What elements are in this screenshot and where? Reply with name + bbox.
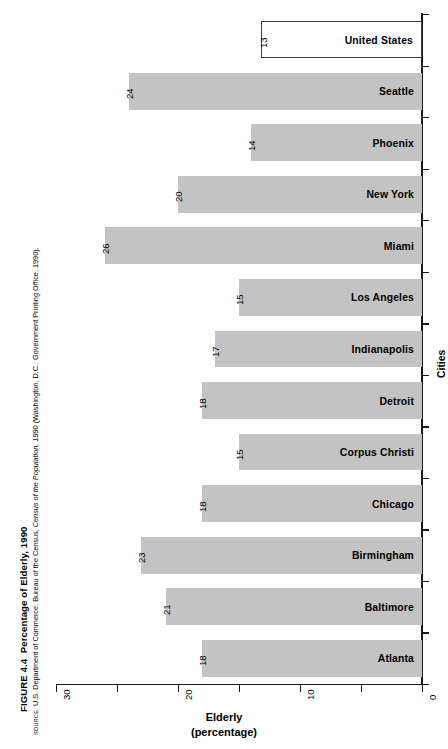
bar-category-label: Indianapolis bbox=[352, 343, 414, 354]
bar-corpus-christi: Corpus Christi bbox=[239, 434, 422, 471]
bar-seattle: Seattle bbox=[129, 73, 422, 110]
bar-row: Seattle24 bbox=[56, 73, 422, 110]
value-axis-title-main: Elderly bbox=[0, 710, 448, 725]
category-axis-title: Cities bbox=[436, 350, 447, 378]
bar-value-label: 13 bbox=[258, 37, 269, 48]
category-tick bbox=[422, 272, 429, 273]
bar-new-york: New York bbox=[178, 176, 422, 213]
category-tick bbox=[422, 632, 429, 633]
category-tick bbox=[422, 169, 429, 170]
source-text-post: (Washington, D.C.: Government Printing O… bbox=[31, 247, 40, 425]
bar-row: Chicago18 bbox=[56, 485, 422, 522]
bar-value-label: 15 bbox=[234, 449, 245, 460]
bar-row: Los Angeles15 bbox=[56, 279, 422, 316]
category-tick bbox=[422, 478, 429, 479]
value-tick bbox=[361, 684, 362, 692]
bar-row: United States13 bbox=[56, 21, 422, 58]
category-tick bbox=[422, 323, 429, 324]
bar-value-label: 17 bbox=[210, 346, 221, 357]
bar-baltimore: Baltimore bbox=[166, 588, 422, 625]
value-tick-label: 0 bbox=[427, 695, 438, 700]
value-tick bbox=[300, 684, 301, 692]
bar-row: Phoenix14 bbox=[56, 124, 422, 161]
bar-value-label: 21 bbox=[161, 604, 172, 615]
bar-phoenix: Phoenix bbox=[251, 124, 422, 161]
value-tick-label: 20 bbox=[183, 689, 194, 700]
bar-category-label: Birmingham bbox=[352, 550, 414, 561]
value-axis-title: Elderly (percentage) bbox=[0, 710, 448, 740]
figure-title: Percentage of Elderly, 1990 bbox=[18, 526, 29, 653]
source-publication-title: Census of the Population, 1990 bbox=[31, 425, 40, 527]
bar-category-label: Seattle bbox=[379, 86, 414, 97]
value-tick bbox=[117, 684, 118, 692]
bar-category-label: Phoenix bbox=[373, 137, 414, 148]
value-tick bbox=[422, 684, 423, 692]
bar-atlanta: Atlanta bbox=[202, 640, 422, 677]
value-tick-label: 10 bbox=[305, 689, 316, 700]
bar-value-label: 15 bbox=[234, 295, 245, 306]
bar-category-label: Los Angeles bbox=[351, 292, 414, 303]
bar-row: Corpus Christi15 bbox=[56, 434, 422, 471]
bar-value-label: 18 bbox=[197, 501, 208, 512]
bar-row: Miami26 bbox=[56, 227, 422, 264]
bar-miami: Miami bbox=[105, 227, 422, 264]
category-tick bbox=[422, 529, 429, 530]
bar-category-label: Detroit bbox=[379, 395, 414, 406]
bar-value-label: 23 bbox=[136, 552, 147, 563]
category-tick bbox=[422, 375, 429, 376]
bar-row: Indianapolis17 bbox=[56, 331, 422, 368]
category-tick bbox=[422, 66, 429, 67]
figure-page: FIGURE 4.4 Percentage of Elderly, 1990 S… bbox=[0, 0, 448, 749]
bar-row: Atlanta18 bbox=[56, 640, 422, 677]
bar-row: Birmingham23 bbox=[56, 537, 422, 574]
bar-detroit: Detroit bbox=[202, 382, 422, 419]
source-text-pre: U.S. Department of Commerce, Bureau of t… bbox=[31, 527, 40, 708]
value-tick-label: 30 bbox=[61, 689, 72, 700]
bar-chart-plot-area: United States13Seattle24Phoenix14New Yor… bbox=[56, 14, 422, 684]
bar-value-label: 14 bbox=[246, 140, 257, 151]
value-tick bbox=[56, 684, 57, 692]
bar-birmingham: Birmingham bbox=[141, 537, 422, 574]
figure-source: SOURCE: U.S. Department of Commerce, Bur… bbox=[31, 247, 40, 735]
bar-row: Detroit18 bbox=[56, 382, 422, 419]
caption-column: FIGURE 4.4 Percentage of Elderly, 1990 S… bbox=[0, 0, 40, 749]
bar-category-label: Chicago bbox=[372, 498, 414, 509]
value-tick bbox=[239, 684, 240, 692]
bar-chicago: Chicago bbox=[202, 485, 422, 522]
figure-caption: FIGURE 4.4 Percentage of Elderly, 1990 bbox=[18, 526, 29, 712]
figure-number: FIGURE 4.4 bbox=[18, 659, 29, 712]
category-tick bbox=[422, 220, 429, 221]
bar-los-angeles: Los Angeles bbox=[239, 279, 422, 316]
bar-value-label: 26 bbox=[100, 243, 111, 254]
bar-indianapolis: Indianapolis bbox=[215, 331, 422, 368]
category-tick bbox=[422, 14, 429, 15]
category-tick bbox=[422, 117, 429, 118]
bar-category-label: United States bbox=[345, 34, 413, 45]
category-tick bbox=[422, 426, 429, 427]
bar-value-label: 24 bbox=[124, 89, 135, 100]
bar-category-label: New York bbox=[366, 189, 414, 200]
bar-united-states: United States bbox=[261, 21, 422, 58]
value-axis-title-sub: (percentage) bbox=[0, 725, 448, 740]
value-tick bbox=[178, 684, 179, 692]
bar-row: New York20 bbox=[56, 176, 422, 213]
bar-category-label: Miami bbox=[384, 240, 414, 251]
bar-value-label: 20 bbox=[173, 192, 184, 203]
bar-value-label: 18 bbox=[197, 656, 208, 667]
bar-category-label: Baltimore bbox=[365, 601, 414, 612]
category-tick bbox=[422, 581, 429, 582]
bar-row: Baltimore21 bbox=[56, 588, 422, 625]
bar-value-label: 18 bbox=[197, 398, 208, 409]
bar-category-label: Corpus Christi bbox=[340, 447, 414, 458]
bar-category-label: Atlanta bbox=[378, 653, 414, 664]
